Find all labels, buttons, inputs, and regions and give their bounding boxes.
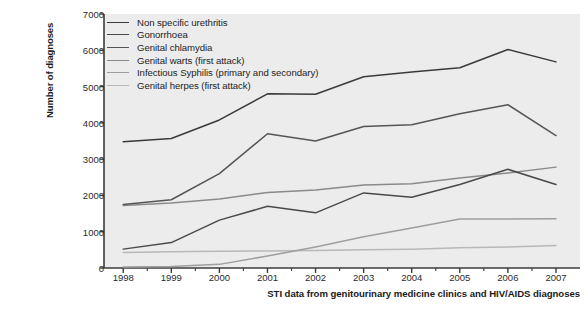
legend-item[interactable]: Non specific urethritis xyxy=(107,16,397,29)
legend-item[interactable]: Genital warts (first attack) xyxy=(107,54,397,67)
x-axis-tick-label: 1998 xyxy=(103,272,143,283)
legend-line-swatch-icon xyxy=(107,47,129,48)
x-axis-tick-label: 2002 xyxy=(296,272,336,283)
x-axis-tick-label: 2005 xyxy=(440,272,480,283)
chart-caption: STI data from genitourinary medicine cli… xyxy=(0,288,580,299)
legend-item-label: Infectious Syphilis (primary and seconda… xyxy=(137,67,318,78)
legend-item[interactable]: Gonorrhoea xyxy=(107,29,397,42)
x-axis-tick-label: 2006 xyxy=(488,272,528,283)
x-axis-tick-label: 2001 xyxy=(247,272,287,283)
legend-item-label: Gonorrhoea xyxy=(137,29,188,40)
legend-line-swatch-icon xyxy=(107,60,129,61)
legend-item[interactable]: Genital herpes (first attack) xyxy=(107,79,397,92)
legend-item[interactable]: Genital chlamydia xyxy=(107,41,397,54)
x-axis-tick-label: 1999 xyxy=(151,272,191,283)
legend-item-label: Genital herpes (first attack) xyxy=(137,80,251,91)
legend-item-label: Non specific urethritis xyxy=(137,17,228,28)
x-axis-tick-label: 2004 xyxy=(392,272,432,283)
x-axis-tick-label: 2003 xyxy=(344,272,384,283)
legend-item[interactable]: Infectious Syphilis (primary and seconda… xyxy=(107,66,397,79)
chart-figure: Number of diagnoses 01000200030004000500… xyxy=(0,0,588,309)
x-axis-tick-label: 2000 xyxy=(199,272,239,283)
legend-line-swatch-icon xyxy=(107,22,129,23)
legend-line-swatch-icon xyxy=(107,34,129,35)
legend-item-label: Genital chlamydia xyxy=(137,42,212,53)
x-axis-tick-label: 2007 xyxy=(536,272,576,283)
legend-line-swatch-icon xyxy=(107,72,129,73)
chart-legend: Non specific urethritisGonorrhoeaGenital… xyxy=(107,16,397,92)
legend-item-label: Genital warts (first attack) xyxy=(137,55,244,66)
legend-line-swatch-icon xyxy=(107,85,129,86)
